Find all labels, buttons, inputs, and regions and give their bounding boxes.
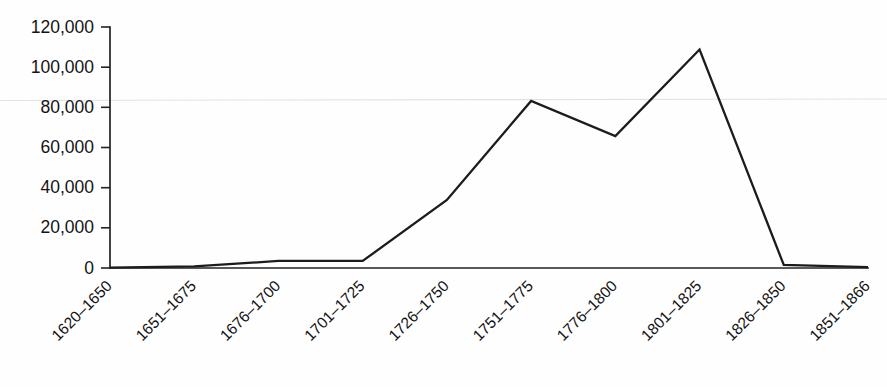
x-tick-label: 1826–1850 [722,277,789,344]
scan-artifact-line [0,99,887,101]
y-axis-ticks [101,27,110,268]
chart-figure: 120,000 100,000 80,000 60,000 40,000 20,… [0,0,887,387]
y-tick-label: 100,000 [31,57,95,77]
x-tick-label: 1620–1650 [48,277,115,344]
x-tick-label: 1751–1775 [469,277,536,344]
series-line [110,49,868,267]
line-chart-canvas: 120,000 100,000 80,000 60,000 40,000 20,… [0,0,887,387]
x-axis-tick-labels: 1620–16501651–16751676–17001701–17251726… [48,277,873,344]
y-tick-label: 120,000 [31,17,95,37]
y-tick-label: 20,000 [40,217,94,237]
y-axis-tick-labels: 120,000 100,000 80,000 60,000 40,000 20,… [31,17,95,278]
y-tick-label: 60,000 [40,137,94,157]
y-tick-label: 40,000 [40,177,94,197]
x-tick-label: 1651–1675 [132,277,199,344]
x-tick-label: 1726–1750 [385,277,452,344]
x-tick-label: 1801–1825 [638,277,705,344]
x-tick-label: 1851–1866 [806,277,873,344]
x-tick-label: 1776–1800 [553,277,620,344]
y-tick-label: 0 [84,258,94,278]
x-tick-label: 1701–1725 [301,277,368,344]
y-tick-label: 80,000 [40,97,94,117]
x-tick-label: 1676–1700 [217,277,284,344]
